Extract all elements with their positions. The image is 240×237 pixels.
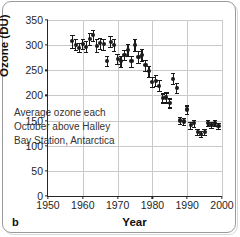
error-bar-cap-upper — [91, 30, 95, 31]
data-point — [203, 130, 207, 134]
y-axis-tick-mark — [45, 44, 48, 45]
error-bar-cap-lower — [216, 129, 220, 130]
error-bar-cap-upper — [140, 49, 144, 50]
figure-panel: Ozone (DU) 05010015020025030035019501960… — [0, 0, 240, 237]
error-bar-cap-upper — [129, 56, 133, 57]
error-bar-cap-upper — [74, 39, 78, 40]
error-bar-cap-upper — [101, 39, 105, 40]
data-point — [102, 42, 106, 46]
error-bar-cap-upper — [136, 51, 140, 52]
error-bar-cap-upper — [164, 92, 168, 93]
error-bar-cap-upper — [133, 39, 137, 40]
gridline-horizontal — [48, 20, 222, 21]
x-axis-tick-label: 1990 — [176, 200, 199, 211]
data-point — [147, 69, 151, 73]
error-bar-cap-lower — [101, 50, 105, 51]
x-axis-tick-label: 1970 — [106, 200, 129, 211]
data-point — [171, 77, 175, 81]
panel-label: b — [12, 216, 19, 228]
data-point — [168, 101, 172, 105]
x-axis-tick-label: 2000 — [210, 200, 233, 211]
error-bar-cap-lower — [119, 67, 123, 68]
error-bar-cap-lower — [150, 87, 154, 88]
data-point — [185, 107, 189, 111]
error-bar-cap-lower — [88, 45, 92, 46]
y-axis-tick-mark — [45, 95, 48, 96]
error-bar-cap-lower — [209, 128, 213, 129]
data-point — [175, 86, 179, 90]
data-point — [140, 53, 144, 57]
error-bar-cap-upper — [147, 66, 151, 67]
data-point — [216, 124, 220, 128]
annotation-line: Bay Station, Antarctica — [14, 134, 115, 148]
error-bar-cap-upper — [95, 39, 99, 40]
data-point — [126, 48, 130, 52]
error-bar-cap-upper — [168, 98, 172, 99]
error-bar-cap-lower — [168, 107, 172, 108]
gridline-horizontal — [48, 95, 222, 96]
error-bar-cap-upper — [185, 105, 189, 106]
data-point — [157, 84, 161, 88]
y-axis-title: Ozone (DU) — [0, 14, 10, 77]
error-bar-cap-upper — [108, 36, 112, 37]
error-bar-cap-lower — [77, 52, 81, 53]
error-bar-cap-upper — [143, 60, 147, 61]
error-bar-cap-lower — [112, 51, 116, 52]
error-bar-cap-upper — [126, 44, 130, 45]
y-axis-tick-label: 300 — [25, 40, 43, 51]
error-bar-cap-lower — [122, 60, 126, 61]
data-point — [129, 59, 133, 63]
error-bar-cap-lower — [192, 127, 196, 128]
y-axis-tick-label: 50 — [31, 166, 43, 177]
error-bar-cap-lower — [70, 48, 74, 49]
annotation-line: Average ozone each — [14, 106, 115, 120]
error-bar-cap-upper — [150, 77, 154, 78]
error-bar-cap-lower — [74, 50, 78, 51]
error-bar-cap-lower — [199, 137, 203, 138]
data-point — [192, 121, 196, 125]
error-bar-cap-lower — [105, 66, 109, 67]
y-axis-tick-label: 350 — [25, 15, 43, 26]
error-bar-cap-upper — [171, 73, 175, 74]
data-point — [182, 119, 186, 123]
gridline-vertical — [118, 20, 119, 196]
error-bar-cap-upper — [157, 80, 161, 81]
error-bar-cap-upper — [81, 39, 85, 40]
data-point — [133, 43, 137, 47]
error-bar-cap-lower — [91, 41, 95, 42]
error-bar-cap-lower — [136, 63, 140, 64]
error-bar-cap-upper — [70, 35, 74, 36]
error-bar-cap-lower — [81, 49, 85, 50]
error-bar-cap-lower — [202, 135, 206, 136]
error-bar-cap-lower — [84, 52, 88, 53]
error-bar-cap-lower — [129, 67, 133, 68]
error-bar-cap-upper — [84, 41, 88, 42]
error-bar-cap-upper — [105, 56, 109, 57]
y-axis-tick-mark — [45, 70, 48, 71]
gridline-vertical — [152, 20, 153, 196]
error-bar-cap-upper — [161, 93, 165, 94]
data-point — [91, 33, 95, 37]
error-bar-cap-lower — [188, 129, 192, 130]
chart-annotation: Average ozone eachOctober above HalleyBa… — [14, 106, 115, 147]
x-axis-tick-label: 1950 — [36, 200, 59, 211]
x-axis-tick-label: 1980 — [141, 200, 164, 211]
error-bar-cap-lower — [157, 91, 161, 92]
gridline-horizontal — [48, 70, 222, 71]
data-point — [112, 43, 116, 47]
error-bar-cap-lower — [185, 114, 189, 115]
y-axis-tick-mark — [45, 19, 48, 20]
error-bar-cap-lower — [140, 61, 144, 62]
annotation-line: October above Halley — [14, 120, 115, 134]
x-axis-tick-label: 1960 — [71, 200, 94, 211]
error-bar-cap-lower — [108, 47, 112, 48]
error-bar-cap-lower — [95, 52, 99, 53]
x-axis-title: Year — [47, 216, 222, 228]
error-bar-cap-lower — [175, 93, 179, 94]
y-axis-tick-label: 250 — [25, 65, 43, 76]
error-bar-cap-upper — [175, 83, 179, 84]
error-bar-cap-upper — [154, 75, 158, 76]
data-point — [105, 59, 109, 63]
y-axis-tick-mark — [45, 170, 48, 171]
error-bar-cap-upper — [112, 39, 116, 40]
